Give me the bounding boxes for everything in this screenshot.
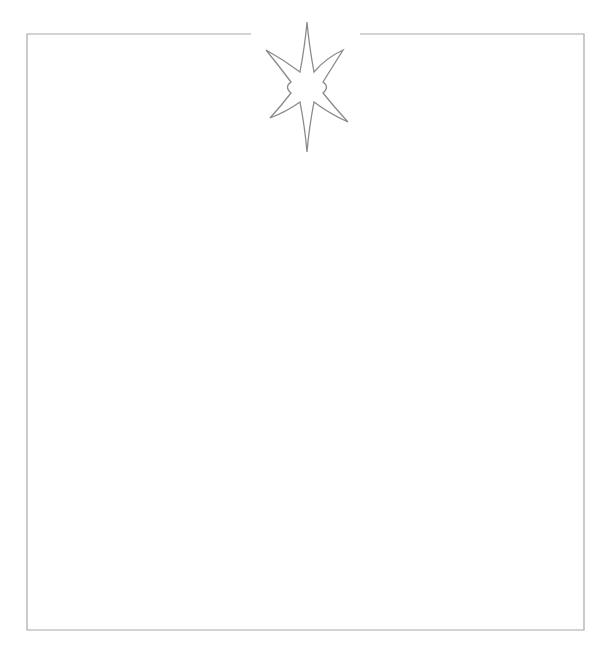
frame-border-left-segment (27, 34, 584, 630)
decorative-frame (0, 0, 615, 656)
sparkle-star-icon (266, 22, 348, 152)
frame-border (27, 34, 584, 630)
